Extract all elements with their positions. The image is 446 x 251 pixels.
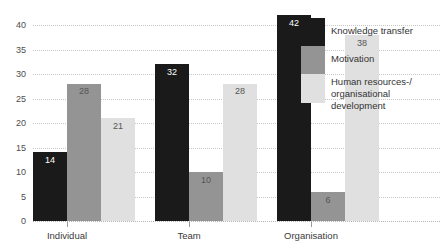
bar-chart: 40 35 30 25 20 15 10 5 0 14 28 21 32 10 …: [0, 0, 446, 251]
legend: Knowledge transfer Motivation Human reso…: [0, 0, 446, 251]
legend-label-motivation: Motivation: [331, 53, 374, 65]
legend-label-hr-organisational-development: Human resources-/ organisational develop…: [331, 76, 446, 112]
legend-label-knowledge-transfer: Knowledge transfer: [331, 25, 413, 37]
legend-swatch-column: [301, 18, 325, 103]
legend-swatch-motivation: [301, 46, 325, 74]
legend-swatch-hr-organisational-development: [301, 74, 325, 103]
legend-swatch-knowledge-transfer: [301, 18, 325, 46]
